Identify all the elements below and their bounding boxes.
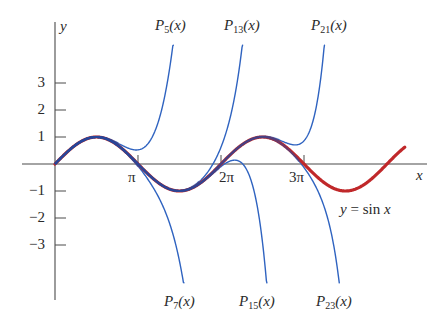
- y-tick-label-2: 2: [21, 102, 45, 117]
- label-p7: P7(x): [164, 294, 195, 311]
- sin-curve-label: y = sin x: [340, 202, 391, 217]
- y-tick-label-neg2: −2: [21, 210, 45, 225]
- label-p13: P13(x): [224, 18, 260, 35]
- taylor-plot: [0, 0, 448, 326]
- taylor-curve-p7: [55, 137, 184, 283]
- label-p23: P23(x): [316, 294, 352, 311]
- y-tick-label-1: 1: [21, 129, 45, 144]
- y-tick-label-neg1: −1: [21, 183, 45, 198]
- x-axis-label: x: [416, 168, 423, 183]
- label-p15: P15(x): [239, 294, 275, 311]
- y-axis-label: y: [60, 19, 67, 34]
- label-p5: P5(x): [155, 18, 186, 35]
- x-tick-label-3pi: 3π: [289, 170, 304, 185]
- x-tick-label-pi: π: [128, 170, 136, 185]
- x-tick-label-2pi: 2π: [219, 170, 234, 185]
- taylor-curve-p15: [55, 137, 267, 283]
- y-tick-label-neg3: −3: [21, 237, 45, 252]
- label-p21: P21(x): [311, 18, 347, 35]
- taylor-curve-p21: [55, 45, 324, 191]
- y-tick-label-3: 3: [21, 75, 45, 90]
